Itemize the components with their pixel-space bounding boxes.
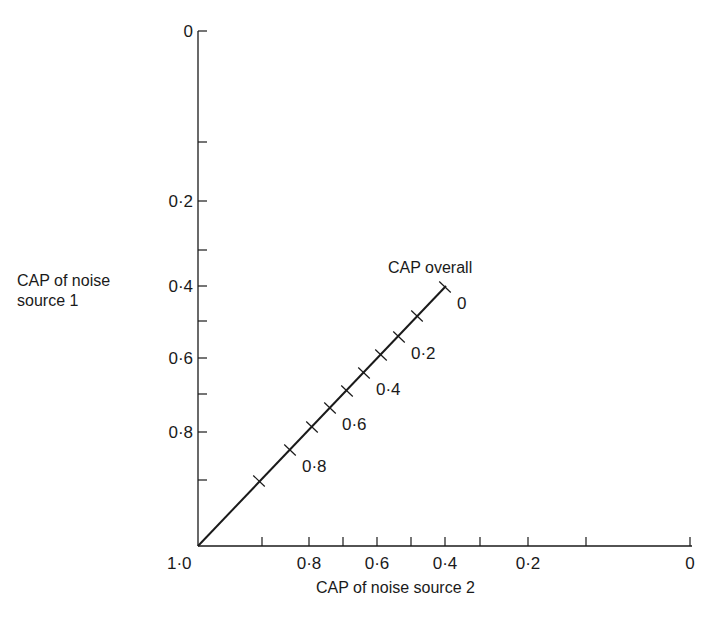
x-axis-ticks: 0·80·60·40·20 [262,537,695,573]
overall-tick-label: 0·4 [376,380,401,399]
y-axis-ticks: 00·20·40·60·8 [168,22,207,480]
overall-tick-label: 0·2 [411,344,436,363]
x-tick-label: 0·8 [297,554,322,573]
y-tick-label: 0·8 [168,423,193,442]
y-axis-label: CAP of noise [17,272,110,289]
x-tick-label: 0·4 [433,554,458,573]
y-tick-label: 0·4 [168,277,193,296]
x-tick-label: 0 [685,554,694,573]
overall-tick-label: 0·6 [342,415,367,434]
overall-cap-line [198,286,446,546]
x-tick-label: 0·2 [516,554,541,573]
overall-tick-label: 0·8 [302,457,327,476]
x-axis-label: CAP of noise source 2 [316,579,475,596]
overall-line-label: CAP overall [388,259,472,276]
x-tick-label: 0·6 [365,554,390,573]
y-tick-label: 0 [184,22,193,41]
origin-label: 1·0 [167,554,192,573]
overall-tick-label: 0 [457,294,466,313]
y-tick-label: 0·2 [168,192,193,211]
nomogram: 00·20·40·60·8 0·80·60·40·20 00·20·40·60·… [0,0,714,618]
y-tick-label: 0·6 [168,349,193,368]
y-axis-label-line2: source 1 [17,292,78,309]
